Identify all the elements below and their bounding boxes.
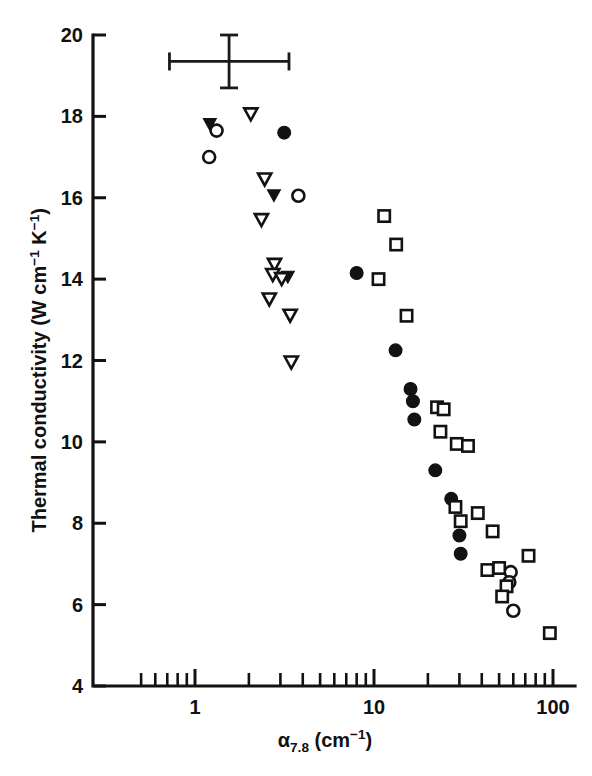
y-tick-label-18: 18 bbox=[37, 106, 83, 126]
y-tick-label-20: 20 bbox=[37, 25, 83, 45]
x-axis-title: α7.8 (cm−1) bbox=[225, 727, 425, 755]
marker-circle-filled bbox=[408, 413, 421, 426]
marker-circle-open bbox=[211, 125, 223, 137]
marker-circle-filled bbox=[429, 464, 442, 477]
y-tick-label-4: 4 bbox=[37, 676, 83, 696]
x-axis-title-symbol: α bbox=[278, 729, 290, 751]
x-axis-title-unit-open: (cm bbox=[309, 729, 350, 751]
y-axis-title: Thermal conductivity (W cm−1 K−1) bbox=[27, 150, 52, 590]
marker-square-open bbox=[379, 210, 390, 221]
marker-circle-filled bbox=[389, 344, 402, 357]
marker-triangle-down-open bbox=[244, 108, 257, 120]
x-axis-title-unit-close: ) bbox=[366, 729, 373, 751]
plot-canvas bbox=[0, 0, 592, 776]
y-axis-title-exponent-1: −1 bbox=[27, 250, 42, 266]
marker-triangle-down-open bbox=[284, 310, 297, 322]
marker-square-open bbox=[544, 627, 555, 638]
ticks-group bbox=[93, 35, 553, 686]
marker-square-open bbox=[493, 562, 504, 573]
x-tick-label-1: 1 bbox=[165, 697, 225, 717]
marker-circle-filled bbox=[454, 547, 467, 560]
marker-square-open bbox=[438, 404, 449, 415]
marker-square-open bbox=[462, 440, 473, 451]
marker-circle-filled bbox=[278, 126, 291, 139]
scatter-plot-figure: 468101214161820 110100 α7.8 (cm−1) Therm… bbox=[0, 0, 592, 776]
x-axis-title-subscript: 7.8 bbox=[290, 740, 309, 755]
marker-square-open bbox=[496, 591, 507, 602]
marker-square-open bbox=[451, 438, 462, 449]
y-axis-title-exponent-2: −1 bbox=[27, 215, 42, 231]
marker-triangle-down-open bbox=[255, 214, 268, 226]
marker-square-open bbox=[472, 507, 483, 518]
marker-square-open bbox=[455, 516, 466, 527]
marker-circle-filled bbox=[404, 383, 417, 396]
marker-square-open bbox=[450, 501, 461, 512]
marker-square-open bbox=[373, 273, 384, 284]
marker-circle-open bbox=[507, 605, 519, 617]
marker-triangle-down-open bbox=[285, 357, 298, 369]
y-axis-title-text-3: ) bbox=[28, 208, 50, 215]
x-tick-label-100: 100 bbox=[523, 697, 583, 717]
error-bar bbox=[169, 35, 289, 88]
x-axis-title-unit-exponent: −1 bbox=[350, 727, 366, 742]
marker-circle-filled bbox=[453, 529, 466, 542]
marker-square-open bbox=[390, 239, 401, 250]
marker-circle-filled bbox=[407, 395, 420, 408]
marker-circle-filled bbox=[350, 267, 363, 280]
marker-circle-open bbox=[292, 190, 304, 202]
marker-circle-open bbox=[203, 151, 215, 163]
marker-square-open bbox=[487, 526, 498, 537]
marker-square-open bbox=[435, 426, 446, 437]
marker-square-open bbox=[401, 310, 412, 321]
y-axis-title-text-2: K bbox=[28, 230, 50, 250]
marker-triangle-down-open bbox=[258, 173, 271, 185]
marker-triangle-down-open bbox=[275, 273, 288, 285]
marker-triangle-down-filled bbox=[268, 190, 281, 202]
marker-square-open bbox=[482, 564, 493, 575]
x-tick-label-10: 10 bbox=[344, 697, 404, 717]
marker-triangle-down-open bbox=[263, 293, 276, 305]
y-tick-label-6: 6 bbox=[37, 595, 83, 615]
data-points-group bbox=[203, 108, 555, 638]
marker-square-open bbox=[523, 550, 534, 561]
y-axis-title-text-1: Thermal conductivity (W cm bbox=[28, 266, 50, 533]
